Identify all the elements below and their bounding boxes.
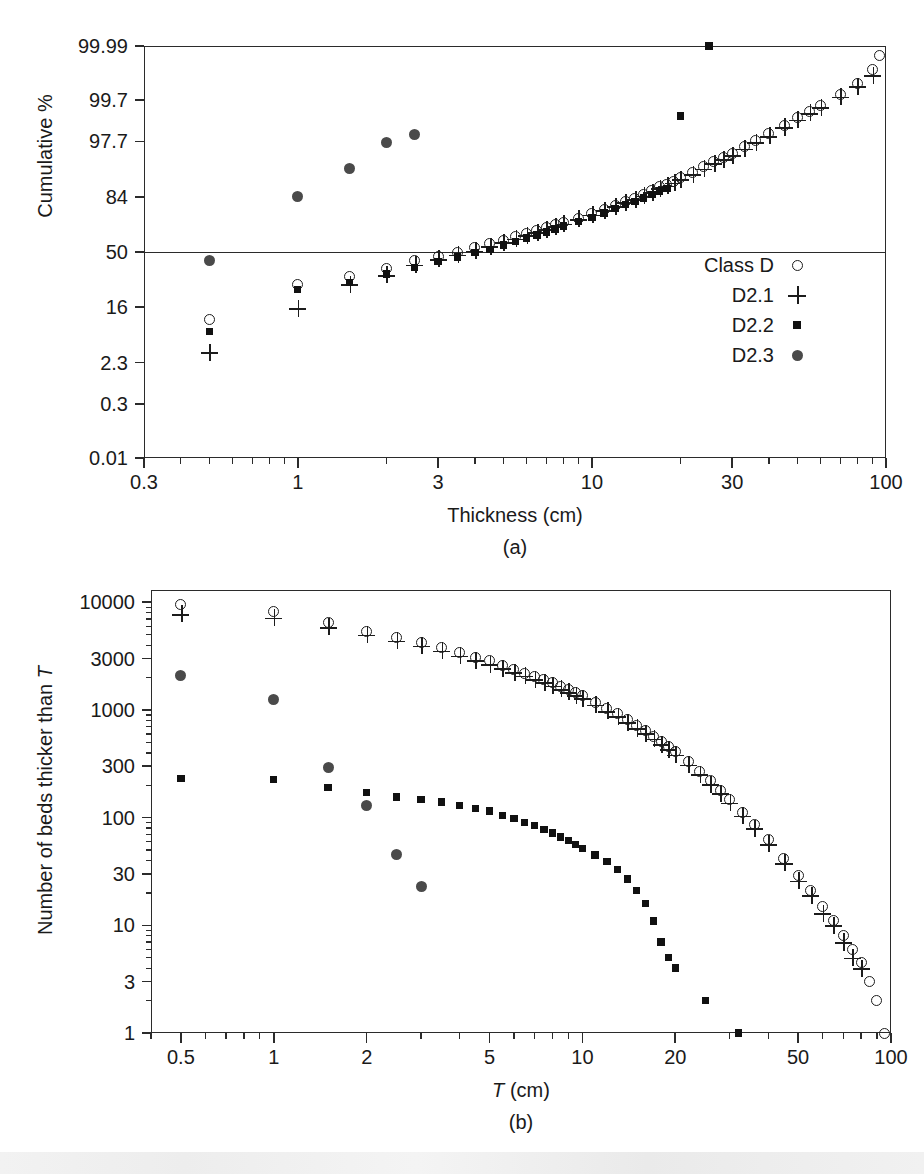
y-axis-minor-tick	[146, 607, 151, 608]
x-axis-minor-tick	[459, 1033, 460, 1039]
scan-artifact-bottom	[0, 1152, 924, 1174]
x-axis-minor-tick	[843, 1033, 844, 1039]
y-axis-tick-label: 1000	[15, 700, 135, 720]
y-axis-minor-tick	[146, 733, 151, 734]
y-axis-minor-tick	[146, 677, 151, 678]
y-axis-minor-tick	[146, 742, 151, 743]
x-axis-minor-tick	[150, 1033, 151, 1039]
y-axis-tick-label: 3	[15, 972, 135, 992]
y-axis-minor-tick	[146, 612, 151, 613]
x-axis-minor-tick	[860, 1033, 861, 1039]
y-axis-minor-tick	[146, 822, 151, 823]
x-axis-tick-label: 100	[831, 1047, 924, 1067]
y-axis-tick-label: 3000	[15, 649, 135, 669]
chart-panel-b: 13103010030010003000100000.5125102050100…	[0, 0, 924, 1174]
x-axis-minor-tick	[568, 1033, 569, 1039]
x-axis-minor-tick	[798, 1033, 799, 1039]
x-axis-minor-tick	[259, 1033, 260, 1039]
y-axis-minor-tick	[146, 925, 151, 926]
x-axis-minor-tick	[675, 1033, 676, 1039]
y-axis-minor-tick	[146, 752, 151, 753]
x-axis-minor-tick	[552, 1033, 553, 1039]
y-axis-minor-tick	[146, 935, 151, 936]
plot-frame	[151, 590, 891, 1033]
y-axis-minor-tick	[146, 645, 151, 646]
y-axis-minor-tick	[146, 957, 151, 958]
panel-caption: (b)	[461, 1111, 581, 1133]
y-axis-minor-tick	[146, 834, 151, 835]
y-axis-minor-tick	[146, 817, 151, 818]
y-axis-minor-tick	[146, 968, 151, 969]
x-axis-title: T (cm)	[401, 1079, 641, 1101]
x-axis-minor-tick	[225, 1033, 226, 1039]
x-axis-minor-tick	[534, 1033, 535, 1039]
y-axis-tick-label: 10000	[15, 592, 135, 612]
y-axis-minor-tick	[146, 892, 151, 893]
y-axis-minor-tick	[146, 949, 151, 950]
y-axis-minor-tick	[146, 726, 151, 727]
y-axis-minor-tick	[146, 930, 151, 931]
x-axis-minor-tick	[243, 1033, 244, 1039]
x-axis-minor-tick	[768, 1033, 769, 1039]
y-axis-minor-tick	[146, 849, 151, 850]
y-axis-tick-label: 1	[15, 1023, 135, 1043]
x-axis-minor-tick	[876, 1033, 877, 1039]
x-axis-minor-tick	[729, 1033, 730, 1039]
y-axis-tick-label: 30	[15, 864, 135, 884]
y-axis-minor-tick	[146, 827, 151, 828]
y-axis-minor-tick	[146, 873, 151, 874]
x-axis-minor-tick	[513, 1033, 514, 1039]
y-axis-minor-tick	[146, 658, 151, 659]
y-axis-tick-label: 100	[15, 808, 135, 828]
y-axis-minor-tick	[146, 602, 151, 603]
x-axis-minor-tick	[366, 1033, 367, 1039]
y-axis-minor-tick	[146, 941, 151, 942]
y-axis-minor-tick	[146, 841, 151, 842]
y-axis-title: Number of beds thicker than T	[34, 579, 56, 1022]
x-axis-minor-tick	[205, 1033, 206, 1039]
y-axis-minor-tick	[146, 618, 151, 619]
y-axis-minor-tick	[146, 714, 151, 715]
y-axis-minor-tick	[146, 1000, 151, 1001]
y-axis-minor-tick	[146, 709, 151, 710]
y-axis-minor-tick	[146, 634, 151, 635]
x-axis-minor-tick	[180, 1033, 181, 1039]
y-axis-tick-label: 300	[15, 756, 135, 776]
y-axis-tick-label: 10	[15, 915, 135, 935]
x-axis-minor-tick	[273, 1033, 274, 1039]
y-axis-minor-tick	[146, 860, 151, 861]
y-axis-minor-tick	[146, 766, 151, 767]
y-axis-minor-tick	[146, 720, 151, 721]
y-axis-minor-tick	[146, 785, 151, 786]
x-axis-tick-label: 2	[307, 1047, 427, 1067]
x-axis-minor-tick	[582, 1033, 583, 1039]
x-axis-minor-tick	[822, 1033, 823, 1039]
x-axis-tick-label: 20	[615, 1047, 735, 1067]
x-axis-minor-tick	[489, 1033, 490, 1039]
x-axis-minor-tick	[420, 1033, 421, 1039]
y-axis-minor-tick	[146, 981, 151, 982]
x-axis-minor-tick	[890, 1033, 891, 1039]
y-axis-minor-tick	[146, 626, 151, 627]
